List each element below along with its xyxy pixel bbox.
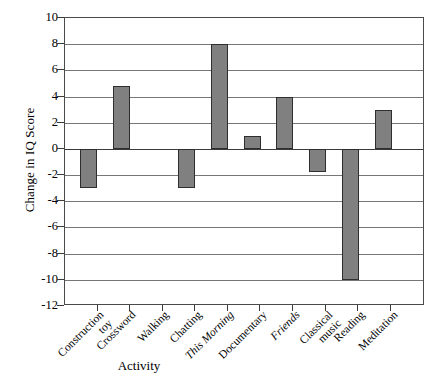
bar (375, 110, 392, 149)
y-axis-tick-label: 6 (20, 63, 58, 76)
plot-area (64, 17, 424, 305)
bar (309, 149, 326, 173)
bars-group (65, 18, 423, 304)
y-axis-tick-label: -8 (20, 246, 58, 259)
y-axis-tick-mark (57, 17, 64, 18)
bar (178, 149, 195, 188)
y-axis-tick-label: 10 (20, 11, 58, 24)
bar (244, 136, 261, 149)
y-axis-tick-label: -10 (20, 273, 58, 286)
y-axis-tick-label: -4 (20, 194, 58, 207)
y-axis-tick-mark (57, 148, 64, 149)
bar-chart: Change in IQ Score 1086420-2-4-6-8-10-12… (0, 0, 440, 383)
y-axis-tick-label: 0 (20, 142, 58, 155)
y-axis-tick-labels: 1086420-2-4-6-8-10-12 (20, 0, 58, 383)
x-axis-category-label: Walking (136, 309, 172, 345)
y-axis-tick-label: 4 (20, 89, 58, 102)
y-axis-tick-mark (57, 226, 64, 227)
y-axis-tick-mark (57, 253, 64, 254)
y-axis-tick-mark (57, 200, 64, 201)
bar (342, 149, 359, 280)
y-axis-tick-mark (57, 43, 64, 44)
bar (276, 97, 293, 149)
y-axis-tick-mark (57, 279, 64, 280)
y-axis-tick-label: -2 (20, 168, 58, 181)
y-axis-tick-label: -12 (20, 299, 58, 312)
y-axis-tick-mark (57, 174, 64, 175)
x-axis-title: Activity (64, 358, 214, 374)
y-axis-tick-label: 8 (20, 37, 58, 50)
y-axis-tick-mark (57, 305, 64, 306)
bar (113, 86, 130, 149)
y-axis-tick-mark (57, 96, 64, 97)
bar (211, 44, 228, 149)
y-axis-tick-mark (57, 122, 64, 123)
y-axis-tick-mark (57, 69, 64, 70)
y-axis-tick-label: -6 (20, 220, 58, 233)
bar (80, 149, 97, 188)
y-axis-tick-label: 2 (20, 115, 58, 128)
x-axis-category-label-line: Walking (135, 308, 171, 344)
